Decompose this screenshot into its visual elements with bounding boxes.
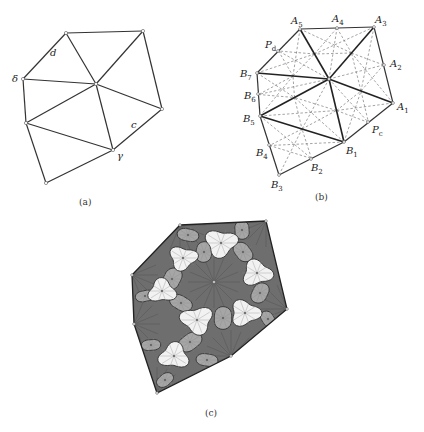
- vertex-A4: [336, 27, 339, 30]
- hub-ray: [231, 356, 241, 380]
- triangulation-edge: [300, 29, 329, 79]
- hub-ray: [242, 211, 266, 221]
- vertex-C: [328, 78, 331, 81]
- vertex-B4: [268, 144, 271, 147]
- dashed-median: [361, 27, 374, 91]
- vertex-A1: [392, 102, 395, 105]
- label-A1: A1: [396, 101, 409, 115]
- dashed-midline: [337, 91, 362, 111]
- dashed-median: [260, 111, 337, 117]
- label-d: d: [50, 47, 56, 58]
- hub-ray: [157, 393, 181, 403]
- vertex-gamma: [111, 148, 114, 151]
- hub-ray: [157, 393, 167, 417]
- label-B6: B6: [243, 90, 256, 104]
- label-A5: A5: [290, 15, 303, 29]
- hub-ray: [287, 299, 311, 309]
- hub-ray: [266, 203, 284, 221]
- hub-ray: [122, 275, 132, 299]
- hub-ray: [139, 393, 157, 411]
- dashed-midline: [270, 146, 312, 159]
- dashed-midline: [337, 111, 369, 123]
- vertex-B7: [256, 72, 259, 75]
- hub-ray: [124, 324, 134, 348]
- label-B4: B4: [255, 147, 268, 161]
- caption-c: (c): [205, 408, 217, 418]
- hub-ray: [147, 393, 157, 417]
- vertex-bottom: [44, 181, 47, 184]
- vertex-A2: [383, 64, 386, 67]
- hub-ray: [110, 324, 134, 334]
- hub-ray: [133, 383, 157, 393]
- label-c: c: [131, 119, 137, 130]
- vertex-Pc: [367, 121, 370, 124]
- vertex-right: [160, 107, 163, 110]
- vertex-B1: [343, 141, 346, 144]
- vertex-delta: [21, 77, 24, 80]
- label-B3: B3: [270, 179, 283, 193]
- hub-ray: [248, 203, 266, 221]
- vertex-B6: [257, 93, 260, 96]
- label-A4: A4: [331, 13, 344, 27]
- triangulation-edge: [66, 33, 96, 84]
- triangulation-edge: [260, 79, 329, 116]
- hub-ray: [170, 201, 180, 225]
- triangulation-edge: [46, 150, 113, 183]
- dashed-midline: [270, 129, 303, 146]
- label-A2: A2: [389, 58, 402, 72]
- label-B7: B7: [239, 68, 252, 82]
- hub-ray: [287, 309, 311, 319]
- hub-ray: [116, 306, 134, 324]
- vertex-B5: [259, 115, 262, 118]
- hub-vertex: [286, 308, 289, 311]
- hub-ray: [162, 207, 180, 225]
- label-Pd: Pd: [264, 39, 277, 53]
- hub-ray: [266, 211, 290, 221]
- hub-vertex: [133, 323, 136, 326]
- hub-vertex: [265, 220, 268, 223]
- hub-ray: [180, 207, 198, 225]
- hub-ray: [156, 215, 180, 225]
- label-γ: γ: [117, 150, 123, 161]
- label-Pc: Pc: [371, 124, 383, 138]
- triangulation-edge: [23, 33, 66, 79]
- hub-ray: [180, 201, 190, 225]
- vertex-center: [94, 82, 97, 85]
- figure-c-shaded-tiling: [106, 195, 313, 419]
- dashed-midline: [259, 76, 294, 95]
- hub-ray: [108, 275, 132, 285]
- triangulation-edge: [23, 79, 96, 84]
- hub-vertex: [230, 355, 233, 358]
- label-δ: δ: [12, 73, 18, 84]
- dashed-midline: [293, 54, 315, 76]
- hub-ray: [110, 314, 134, 324]
- hub-ray: [287, 291, 305, 309]
- triangulation-edge: [329, 27, 374, 79]
- dashed-median: [279, 129, 302, 175]
- caption-a: (a): [79, 197, 91, 207]
- label-B2: B2: [310, 162, 323, 176]
- triangulation-edge: [96, 84, 162, 109]
- vertex-Pd: [277, 50, 280, 53]
- hub-ray: [116, 324, 134, 342]
- figure-b-labeled-subdivision: A5A4A3PdA2B7B6A1B5PcB4B1B2B3: [239, 13, 409, 193]
- hub-ray: [287, 309, 297, 333]
- label-B1: B1: [345, 145, 358, 159]
- vertex-B3: [278, 174, 281, 177]
- triangulation-edge: [329, 79, 344, 142]
- vertex-tl: [64, 31, 67, 34]
- hub-ray: [122, 251, 132, 275]
- caption-b: (b): [315, 192, 328, 202]
- triangulation-edge: [96, 31, 143, 84]
- hub-ray: [114, 257, 132, 275]
- triangulation-edge: [23, 79, 26, 123]
- hub-ray: [287, 285, 297, 309]
- dashed-midline: [352, 53, 362, 91]
- hub-ray: [266, 221, 290, 231]
- label-A3: A3: [374, 14, 387, 28]
- dashed-midline: [337, 28, 352, 53]
- hub-ray: [256, 197, 266, 221]
- vertex-A3: [373, 26, 376, 29]
- hub-ray: [157, 393, 175, 411]
- figure-a-triangulation: dδcγ: [12, 29, 164, 184]
